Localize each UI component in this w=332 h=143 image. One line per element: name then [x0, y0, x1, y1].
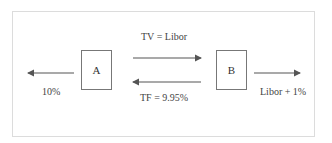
node-a-label: A	[93, 64, 101, 76]
node-b: B	[216, 50, 247, 90]
node-a: A	[81, 50, 112, 90]
node-b-label: B	[228, 64, 235, 76]
top-arrow-label: TV = Libor	[141, 31, 187, 42]
left-arrow-label: 10%	[42, 86, 60, 97]
arrows-layer	[0, 0, 332, 143]
bottom-arrow-label: TF = 9.95%	[140, 92, 188, 103]
right-arrow-label: Libor + 1%	[260, 86, 306, 97]
